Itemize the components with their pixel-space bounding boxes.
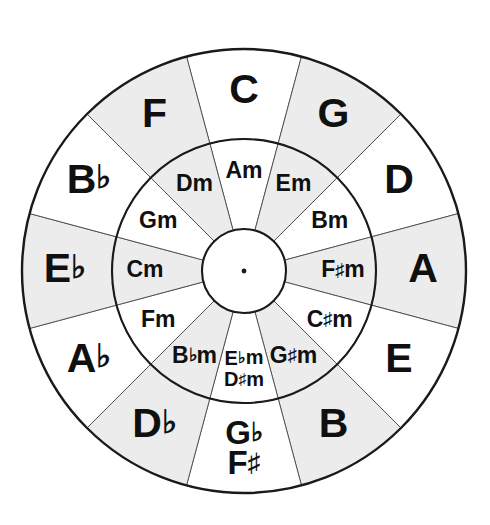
sharp-sign: ♯ <box>238 370 246 387</box>
major-label-Ab: A♭ <box>67 334 112 380</box>
minor-label-Bm: Bm <box>311 207 348 233</box>
flat-sign: ♭ <box>238 349 246 366</box>
minor-label-Am: Am <box>225 157 262 183</box>
note-root: F <box>227 444 247 481</box>
major-label-E: E <box>385 334 412 380</box>
major-label-B: B <box>319 400 349 446</box>
minor-label-Bbm: B♭m <box>172 342 217 368</box>
sharp-sign: ♯ <box>323 309 332 329</box>
minor-label-Fsm: F♯m <box>321 256 364 282</box>
note-root: E <box>224 347 237 369</box>
circle-of-fifths-svg: CGDAEBG♭F♯D♭A♭E♭B♭FAmEmBmF♯mC♯mG♯mE♭mD♯m… <box>0 0 490 525</box>
flat-sign: ♭ <box>189 345 197 365</box>
note-root: E <box>385 334 412 380</box>
minor-label-Fm: Fm <box>141 306 176 332</box>
major-label-Db: D♭ <box>132 400 177 446</box>
major-label-C: C <box>229 66 259 112</box>
flat-sign: ♭ <box>71 249 86 285</box>
note-root: A <box>408 245 438 291</box>
minor-suffix: m <box>246 368 264 390</box>
note-root: A <box>225 157 242 183</box>
minor-suffix: m <box>332 306 352 332</box>
center-point <box>242 269 247 274</box>
minor-suffix: m <box>155 306 175 332</box>
note-root: D <box>176 170 193 196</box>
sharp-sign: ♯ <box>335 259 344 279</box>
note-root: B <box>311 207 328 233</box>
minor-label-Gm: Gm <box>139 207 177 233</box>
minor-suffix: m <box>328 207 348 233</box>
note-root: D <box>384 155 414 201</box>
primary-spelling: E♭m <box>224 347 263 369</box>
minor-suffix: m <box>193 170 213 196</box>
note-root: F <box>142 90 167 136</box>
minor-suffix: m <box>157 207 177 233</box>
major-label-D: D <box>384 155 414 201</box>
flat-sign: ♭ <box>162 404 177 440</box>
note-root: B <box>172 342 189 368</box>
minor-suffix: m <box>344 256 364 282</box>
minor-suffix: m <box>143 256 163 282</box>
minor-suffix: m <box>297 342 317 368</box>
major-label-F: F <box>142 90 167 136</box>
note-root: C <box>307 306 324 332</box>
major-label-G: G <box>318 90 350 136</box>
enharmonic-spelling: F♯ <box>227 444 260 481</box>
minor-label-Dm: Dm <box>176 170 213 196</box>
sharp-sign: ♯ <box>288 345 297 365</box>
minor-label-Cm: Cm <box>126 256 163 282</box>
note-root: A <box>67 334 97 380</box>
circle-of-fifths-diagram: CGDAEBG♭F♯D♭A♭E♭B♭FAmEmBmF♯mC♯mG♯mE♭mD♯m… <box>0 0 490 525</box>
note-root: G <box>270 342 288 368</box>
major-label-Eb: E♭ <box>44 245 86 291</box>
flat-sign: ♭ <box>251 418 263 446</box>
sharp-sign: ♯ <box>248 448 261 476</box>
note-root: G <box>139 207 157 233</box>
note-root: B <box>67 155 97 201</box>
minor-suffix: m <box>242 157 262 183</box>
minor-label-Csm: C♯m <box>307 306 353 332</box>
flat-sign: ♭ <box>96 339 111 375</box>
note-root: D <box>224 368 238 390</box>
note-root: E <box>276 170 291 196</box>
minor-label-Em: Em <box>276 170 312 196</box>
major-label-A: A <box>408 245 438 291</box>
minor-label-Gsm: G♯m <box>270 342 317 368</box>
note-root: B <box>319 400 349 446</box>
minor-suffix: m <box>291 170 311 196</box>
note-root: D <box>132 400 162 446</box>
note-root: G <box>318 90 350 136</box>
major-label-Bb: B♭ <box>67 155 112 201</box>
flat-sign: ♭ <box>96 160 111 196</box>
note-root: C <box>126 256 143 282</box>
enharmonic-spelling: D♯m <box>224 368 264 390</box>
note-root: E <box>44 245 71 291</box>
minor-suffix: m <box>246 347 264 369</box>
note-root: C <box>229 66 259 112</box>
minor-suffix: m <box>197 342 217 368</box>
note-root: F <box>321 256 335 282</box>
note-root: F <box>141 306 155 332</box>
